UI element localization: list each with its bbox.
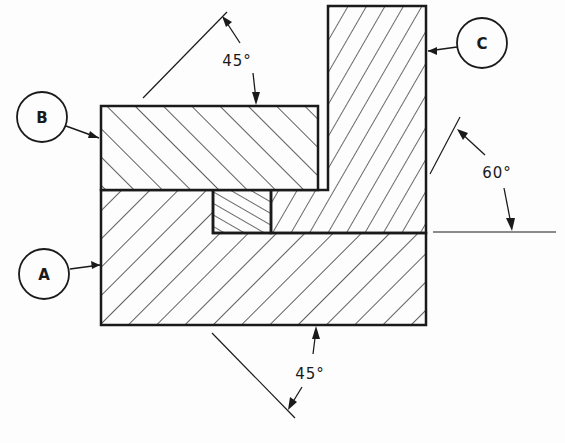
angle-label-a: 45° [295, 365, 325, 383]
key-block [213, 190, 271, 233]
label-c-callout: C [428, 18, 507, 68]
label-a-callout: A [19, 249, 100, 299]
label-b: B [36, 109, 47, 127]
angle-annotation-c: 60° [430, 117, 556, 232]
angle-annotation-a: 45° [212, 326, 325, 418]
label-b-callout: B [17, 92, 99, 142]
section-drawing: B A C 45° 60° 45° [0, 0, 565, 443]
angle-label-c: 60° [482, 164, 512, 182]
part-b [101, 106, 318, 190]
label-a: A [38, 266, 50, 284]
label-c: C [476, 35, 487, 53]
angle-annotation-b: 45° [143, 12, 260, 105]
angle-label-b: 45° [222, 52, 252, 70]
